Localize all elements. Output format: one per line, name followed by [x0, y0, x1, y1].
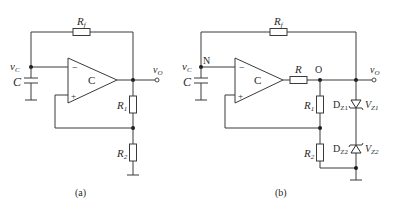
label-r2-a: R2	[116, 147, 128, 161]
noninverting-sign-a: +	[71, 91, 76, 101]
label-vc-b: vC	[182, 60, 192, 74]
zener-dz2	[351, 145, 361, 153]
opamp-label-b: C	[254, 74, 261, 86]
label-r1-b: R1	[303, 99, 314, 113]
capacitor-b	[194, 67, 208, 100]
feedback-wire-a	[31, 32, 133, 80]
inverting-sign-b: −	[239, 62, 245, 73]
label-dz1: DZ1	[333, 99, 349, 112]
caption-b: (b)	[275, 187, 287, 199]
caption-a: (a)	[75, 187, 86, 199]
label-rf-a: Rf	[76, 15, 87, 29]
resistor-r1-b	[317, 96, 324, 113]
label-n-b: N	[203, 55, 210, 66]
label-rf-b: Rf	[273, 15, 284, 29]
feedback-wire-b	[201, 32, 356, 80]
label-o-b: O	[315, 64, 322, 75]
label-r-b: R	[294, 63, 302, 75]
zener-dz1	[351, 100, 361, 108]
output-terminal-b	[372, 78, 376, 82]
divider-wire-b	[320, 80, 356, 168]
label-c-b: C	[183, 75, 192, 89]
label-r2-b: R2	[303, 147, 315, 161]
output-terminal-a	[155, 78, 159, 82]
resistor-rf-b	[270, 29, 287, 36]
label-r1-a: R1	[116, 99, 127, 113]
circuit-b: Rf N vC C − + C R O vO R1 R2	[182, 15, 380, 199]
noninverting-sign-b: +	[238, 91, 243, 101]
capacitor-a	[24, 67, 38, 100]
circuit-diagram: Rf vC C − + C vO R1 R2 (a) Rf	[0, 0, 393, 212]
resistor-r-b	[290, 77, 307, 84]
label-vo-a: vO	[153, 64, 163, 77]
circuit-a: Rf vC C − + C vO R1 R2 (a)	[10, 15, 163, 199]
label-vc-a: vC	[10, 60, 20, 74]
resistor-r2-b	[317, 144, 324, 161]
inverting-sign-a: −	[72, 62, 78, 73]
opamp-label-a: C	[88, 74, 95, 86]
node-zener-bottom-b	[354, 166, 358, 170]
resistor-rf-a	[73, 29, 90, 36]
label-c-a: C	[13, 75, 22, 89]
resistor-r1-a	[130, 96, 137, 113]
label-dz2: DZ2	[333, 143, 349, 156]
zener-wire-b	[350, 80, 362, 180]
label-vz2: VZ2	[365, 143, 379, 156]
label-vo-b: vO	[370, 64, 380, 77]
resistor-r2-a	[130, 144, 137, 161]
label-vz1: VZ1	[365, 99, 379, 112]
